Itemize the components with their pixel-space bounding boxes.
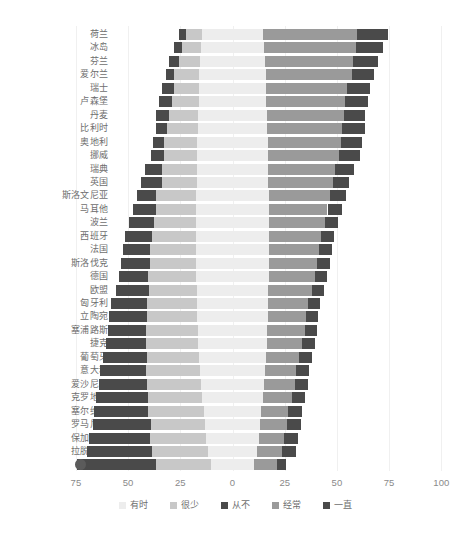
bar-segment — [342, 123, 365, 134]
bar-segment — [129, 217, 154, 228]
bar-segment — [268, 137, 341, 148]
bar-segment — [197, 150, 268, 161]
chart-row: 克罗地亚 — [0, 392, 470, 403]
bar-segment — [292, 392, 305, 403]
bar-segment — [196, 244, 269, 255]
category-label: 西班牙 — [0, 231, 108, 242]
legend-label: 很少 — [181, 499, 199, 511]
bar-segment — [148, 406, 204, 417]
category-label: 意大利 — [0, 365, 108, 376]
bar-segment — [352, 69, 375, 80]
chart-row: 比利时 — [0, 123, 470, 134]
category-label: 瑞士 — [0, 83, 108, 94]
chart-row: 丹麦 — [0, 110, 470, 121]
bar-segment — [94, 406, 148, 417]
bar-segment — [269, 217, 325, 228]
bar-segment — [152, 231, 196, 242]
category-label: 卢森堡 — [0, 96, 108, 107]
bar-segment — [109, 311, 147, 322]
chart-row: 西班牙 — [0, 231, 470, 242]
chart-row: 斯洛伐克 — [0, 258, 470, 269]
bar-segment — [167, 123, 198, 134]
bar-segment — [267, 338, 302, 349]
bar-segment — [150, 433, 206, 444]
category-label: 立陶宛 — [0, 311, 108, 322]
legend-item[interactable]: 从不 — [221, 499, 250, 511]
bar-segment — [287, 419, 302, 430]
bar-segment — [333, 177, 350, 188]
chart-row: 葡萄牙 — [0, 352, 470, 363]
x-axis-tick-label: 25 — [160, 477, 200, 489]
chart-row: 马耳他 — [0, 204, 470, 215]
bar-segment — [162, 164, 197, 175]
bar-segment — [174, 42, 182, 53]
legend-label: 经常 — [283, 499, 301, 511]
bar-segment — [306, 311, 319, 322]
bar-segment — [93, 419, 151, 430]
bar-segment — [151, 150, 164, 161]
diverging-stacked-bar-chart: 荷兰冰岛芬兰爱尔兰瑞士卢森堡丹麦比利时奥地利挪威瑞典英国斯洛文尼亚马耳他波兰西班… — [0, 0, 470, 533]
bar-segment — [197, 137, 268, 148]
bar-segment — [268, 285, 312, 296]
chart-row: 罗马尼亚 — [0, 419, 470, 430]
bar-segment — [146, 325, 198, 336]
bar-segment — [267, 123, 342, 134]
chart-row: 欧盟 — [0, 285, 470, 296]
bar-segment — [146, 365, 200, 376]
bar-segment — [197, 285, 268, 296]
legend-label: 从不 — [232, 499, 250, 511]
category-label: 塞浦路斯 — [0, 325, 108, 336]
bar-segment — [257, 446, 282, 457]
bar-segment — [284, 433, 299, 444]
legend-label: 有时 — [130, 499, 148, 511]
bar-segment — [111, 298, 146, 309]
category-label: 波兰 — [0, 217, 108, 228]
bar-segment — [154, 217, 196, 228]
bar-segment — [87, 446, 152, 457]
bar-segment — [172, 96, 199, 107]
legend-swatch-icon — [272, 502, 279, 509]
bar-segment — [121, 258, 150, 269]
bar-segment — [147, 352, 199, 363]
bar-segment — [166, 69, 174, 80]
legend-swatch-icon — [119, 502, 126, 509]
bar-segment — [125, 231, 152, 242]
x-axis-tick-label: 50 — [108, 477, 148, 489]
bar-segment — [141, 177, 162, 188]
x-axis-tick-label: 25 — [265, 477, 305, 489]
bar-segment — [156, 459, 210, 470]
bar-segment — [296, 365, 309, 376]
bar-segment — [321, 231, 334, 242]
bar-segment — [282, 446, 297, 457]
bar-segment — [197, 164, 268, 175]
bar-segment — [164, 137, 197, 148]
reference-dot-marker — [75, 459, 86, 470]
bar-segment — [267, 325, 305, 336]
bar-segment — [357, 29, 388, 40]
legend-item[interactable]: 有时 — [119, 499, 148, 511]
bar-segment — [205, 419, 259, 430]
legend-item[interactable]: 一直 — [323, 499, 352, 511]
bar-segment — [328, 204, 343, 215]
bar-segment — [204, 406, 260, 417]
chart-row: 瑞典 — [0, 164, 470, 175]
bar-segment — [339, 150, 360, 161]
bar-segment — [197, 177, 268, 188]
chart-row: 爱沙尼亚 — [0, 379, 470, 390]
legend-item[interactable]: 很少 — [170, 499, 199, 511]
bar-segment — [254, 459, 277, 470]
legend-item[interactable]: 经常 — [272, 499, 301, 511]
bar-segment — [106, 338, 146, 349]
bar-segment — [269, 190, 330, 201]
chart-row: 英国 — [0, 177, 470, 188]
bar-segment — [302, 338, 315, 349]
chart-legend: 有时很少从不经常一直 — [0, 499, 470, 511]
category-label: 克罗地亚 — [0, 392, 108, 403]
bar-segment — [119, 271, 148, 282]
bar-segment — [199, 96, 266, 107]
bar-segment — [264, 379, 295, 390]
category-label: 奥地利 — [0, 137, 108, 148]
bar-segment — [264, 42, 356, 53]
chart-row: 保加利亚 — [0, 433, 470, 444]
category-label: 德国 — [0, 271, 108, 282]
